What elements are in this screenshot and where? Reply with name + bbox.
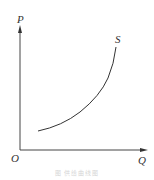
origin-label: O [11,153,19,164]
x-axis-arrow-icon [140,148,148,152]
supply-curve [38,47,116,131]
y-axis-arrow-icon [18,25,22,33]
curve-label: S [115,34,121,45]
supply-curve-diagram: P O Q S 图 供给曲线图 [0,0,154,180]
diagram-canvas [0,0,154,180]
y-axis-label: P [17,14,24,25]
figure-caption: 图 供给曲线图 [0,168,154,177]
x-axis-label: Q [138,155,146,166]
